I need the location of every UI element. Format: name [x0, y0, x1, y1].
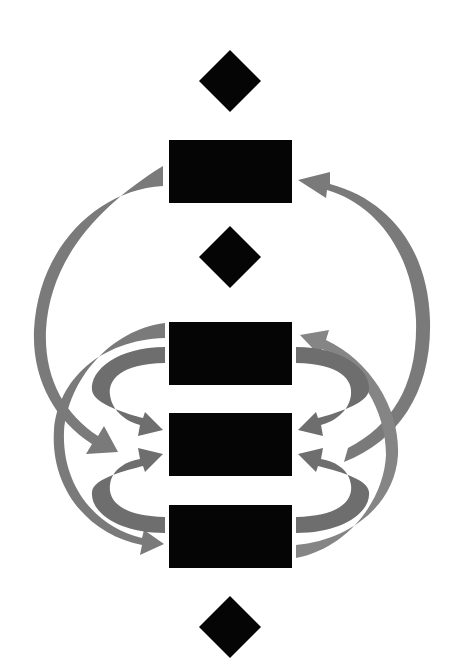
- box-node-4: [169, 505, 292, 568]
- arrow-box4-to-box3-right-c: [296, 448, 369, 533]
- arrow-box2-to-box3-left-c: [92, 347, 165, 436]
- box-node-1: [169, 140, 292, 203]
- arrow-box1-to-box3-left: [34, 166, 163, 454]
- diamond-node-top: [199, 50, 261, 112]
- diamond-node-bottom: [199, 596, 261, 658]
- cycle-diagram: [0, 0, 461, 668]
- box-node-3: [169, 413, 292, 476]
- box-node-2: [169, 322, 292, 385]
- diamond-node-middle: [199, 226, 261, 288]
- arrow-box2-to-box3-right-c: [296, 347, 369, 436]
